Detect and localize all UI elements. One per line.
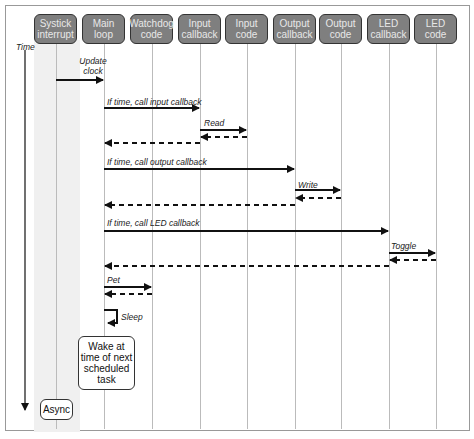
time-axis-label: Time [16, 42, 35, 52]
msg-label-call-output: If time, call output callback [107, 157, 207, 167]
sleep-label: Sleep [121, 312, 143, 322]
async-note: Async [40, 399, 73, 420]
wake-note: Wake at time of next scheduled task [78, 336, 135, 390]
msg-label-write: Write [298, 180, 318, 190]
msg-label-pet: Pet [107, 275, 120, 285]
msg-label-read: Read [204, 118, 224, 128]
msg-label-call-input: If time, call input callback [107, 97, 201, 107]
msg-label-toggle: Toggle [391, 241, 416, 251]
msg-label-update-clock: Update clock [76, 56, 110, 76]
arrows-layer [0, 0, 474, 439]
msg-label-call-led: If time, call LED callback [107, 218, 200, 228]
